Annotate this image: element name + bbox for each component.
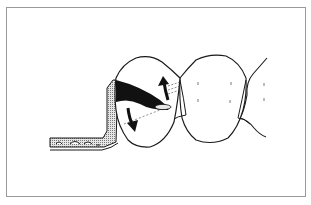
matrix-band — [50, 80, 118, 150]
wedge — [155, 104, 171, 109]
prepared-tooth — [115, 57, 180, 147]
adjacent-tooth — [172, 55, 250, 142]
dental-illustration — [0, 0, 311, 205]
dental-figure: Dental illustration: matrix band with we… — [0, 0, 311, 205]
